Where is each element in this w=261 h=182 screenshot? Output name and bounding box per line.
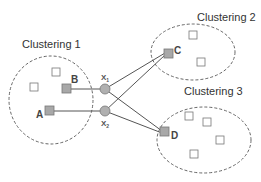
node-d-label: D (171, 130, 178, 141)
node-b-label: B (71, 74, 78, 85)
node-c-label: C (174, 45, 181, 56)
cluster-3-title: Clustering 3 (184, 85, 243, 97)
data-point (185, 112, 193, 120)
node-a-label: A (36, 109, 43, 120)
cluster-2: Clustering 2 (151, 11, 256, 80)
data-point (203, 118, 211, 126)
cluster-diagram: Clustering 1 Clustering 2 Clustering 3 B… (0, 0, 261, 182)
cluster-1-title: Clustering 1 (22, 38, 81, 50)
edge-x2-d (105, 111, 162, 133)
node-d: D (160, 127, 178, 141)
svg-text:X2: X2 (101, 119, 109, 129)
hub-x1: X1 (100, 73, 110, 94)
hub-x2-subscript: 2 (106, 123, 109, 129)
node-c: C (164, 45, 181, 58)
data-point (189, 31, 197, 39)
hub-x1-subscript: 1 (106, 77, 109, 83)
data-point (190, 150, 198, 158)
hub-x2: X2 (100, 106, 110, 129)
data-point (30, 83, 38, 91)
node-a: A (36, 106, 54, 120)
edge-x2-c (105, 55, 165, 111)
svg-text:X1: X1 (101, 73, 109, 83)
cluster-2-title: Clustering 2 (197, 11, 256, 23)
data-point (197, 58, 205, 66)
node-b: B (62, 74, 78, 93)
cluster-1: Clustering 1 (9, 38, 93, 144)
edge-x1-d (105, 89, 162, 131)
data-point (52, 68, 60, 76)
data-point (216, 136, 224, 144)
cluster-3: Clustering 3 (157, 85, 251, 173)
